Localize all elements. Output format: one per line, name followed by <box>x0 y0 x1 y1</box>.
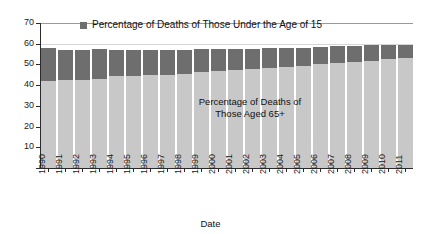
x-tick: 2000 <box>211 172 226 220</box>
x-tick-mark <box>354 168 355 172</box>
x-tick-label: 1993 <box>89 154 98 174</box>
x-tick-label: 2006 <box>310 154 319 174</box>
x-tick-mark <box>65 168 66 172</box>
x-tick: 2011 <box>398 172 413 220</box>
x-tick: 2005 <box>296 172 311 220</box>
bar-segment-under-15 <box>245 49 260 69</box>
bar-column[interactable] <box>109 23 124 168</box>
x-tick-label: 2005 <box>293 154 302 174</box>
x-tick-label: 2008 <box>344 154 353 174</box>
x-tick-mark <box>286 168 287 172</box>
chart-legend: Percentage of Deaths of Those Under the … <box>80 20 322 30</box>
x-tick-label: 2011 <box>396 155 405 174</box>
y-tick-mark <box>36 64 41 65</box>
x-tick-mark <box>269 168 270 172</box>
x-tick: 2010 <box>381 172 396 220</box>
bar-column[interactable] <box>58 23 73 168</box>
bar-segment-under-15 <box>41 48 56 81</box>
bar-column[interactable] <box>41 23 56 168</box>
y-tick-mark <box>36 23 41 24</box>
x-tick-mark <box>405 168 406 172</box>
stacked-bar-chart: 70605040302010 Percentage of Deaths of T… <box>0 0 421 234</box>
x-tick-mark <box>303 168 304 172</box>
x-tick-label: 2001 <box>225 154 234 174</box>
x-tick-mark <box>82 168 83 172</box>
x-tick-mark <box>252 168 253 172</box>
annotation-line-1: Percentage of Deaths of <box>170 96 330 108</box>
bar-segment-under-15 <box>160 50 175 75</box>
y-tick-label: 50 <box>12 59 34 68</box>
y-tick-label: 30 <box>12 101 34 110</box>
x-tick-label: 2002 <box>242 154 251 174</box>
bar-segment-under-15 <box>143 50 158 75</box>
x-tick: 1996 <box>143 172 158 220</box>
x-tick-mark <box>320 168 321 172</box>
bar-column[interactable] <box>347 23 362 168</box>
bar-segment-under-15 <box>262 48 277 67</box>
x-tick: 1993 <box>92 172 107 220</box>
x-tick: 1997 <box>160 172 175 220</box>
bar-segment-65-plus <box>398 58 413 168</box>
x-tick-mark <box>218 168 219 172</box>
y-tick-mark <box>36 44 41 45</box>
legend-label: Percentage of Deaths of Those Under the … <box>92 20 322 30</box>
bar-segment-under-15 <box>364 45 379 61</box>
x-tick: 2004 <box>279 172 294 220</box>
x-tick-label: 1996 <box>140 154 149 174</box>
bar-column[interactable] <box>330 23 345 168</box>
x-tick-label: 1991 <box>55 154 64 174</box>
bar-segment-under-15 <box>92 49 107 78</box>
annotation-line-2: Those Aged 65+ <box>170 108 330 120</box>
x-tick-label: 2009 <box>361 154 370 174</box>
bar-column[interactable] <box>364 23 379 168</box>
x-tick-mark <box>99 168 100 172</box>
x-axis-title: Date <box>0 218 421 229</box>
y-tick-label: 10 <box>12 142 34 151</box>
series-inline-annotation: Percentage of Deaths of Those Aged 65+ <box>170 96 330 120</box>
bar-segment-under-15 <box>296 48 311 66</box>
x-tick: 1995 <box>126 172 141 220</box>
x-axis-labels: 1990199119921993199419951996199719981999… <box>40 172 413 220</box>
bar-segment-under-15 <box>347 46 362 62</box>
bar-column[interactable] <box>143 23 158 168</box>
x-tick-mark <box>116 168 117 172</box>
x-tick-label: 2007 <box>327 154 336 174</box>
x-tick-label: 2003 <box>259 154 268 174</box>
bar-segment-65-plus <box>330 63 345 168</box>
bar-column[interactable] <box>75 23 90 168</box>
y-tick-label: 20 <box>12 122 34 131</box>
y-tick-mark <box>36 168 41 169</box>
x-tick-mark <box>337 168 338 172</box>
bar-column[interactable] <box>126 23 141 168</box>
y-tick-label: 60 <box>12 39 34 48</box>
x-tick-mark <box>48 168 49 172</box>
x-tick: 2006 <box>313 172 328 220</box>
x-tick: 1990 <box>41 172 56 220</box>
y-axis-labels: 70605040302010 <box>8 0 34 234</box>
x-tick-mark <box>133 168 134 172</box>
legend-swatch-icon <box>80 22 87 29</box>
x-tick-label: 1990 <box>38 154 47 174</box>
bar-segment-under-15 <box>194 49 209 72</box>
x-tick: 2001 <box>228 172 243 220</box>
x-tick: 1991 <box>58 172 73 220</box>
x-tick: 2008 <box>347 172 362 220</box>
y-tick-mark <box>36 85 41 86</box>
x-tick: 1998 <box>177 172 192 220</box>
x-tick-mark <box>201 168 202 172</box>
bar-column[interactable] <box>381 23 396 168</box>
bar-segment-under-15 <box>313 47 328 64</box>
bar-segment-under-15 <box>109 50 124 77</box>
bar-column[interactable] <box>92 23 107 168</box>
x-tick-label: 2004 <box>276 154 285 174</box>
bar-segment-65-plus <box>364 61 379 168</box>
y-tick-label: 70 <box>12 18 34 27</box>
bar-column[interactable] <box>398 23 413 168</box>
y-tick-label: 40 <box>12 80 34 89</box>
x-tick-mark <box>184 168 185 172</box>
y-tick-mark <box>36 106 41 107</box>
bar-segment-under-15 <box>228 49 243 70</box>
bar-segment-65-plus <box>347 62 362 168</box>
bar-segment-under-15 <box>330 46 345 63</box>
x-tick-mark <box>371 168 372 172</box>
